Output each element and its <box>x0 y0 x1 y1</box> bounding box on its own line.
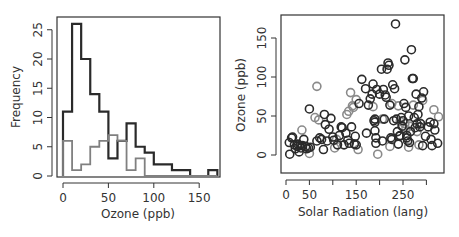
scatter-point-gray <box>374 150 382 158</box>
y-tick-label: 150 <box>255 27 269 50</box>
scatter-point-gray <box>313 82 321 90</box>
scatter-point-dark <box>401 56 409 64</box>
histogram-panel: 050100150 0510152025 Ozone (ppb) Frequen… <box>9 17 220 221</box>
x-tick-label: 0 <box>282 188 290 202</box>
y-tick-label: 5 <box>31 143 45 151</box>
histogram-dark-line <box>63 24 217 176</box>
histogram-series <box>63 24 217 176</box>
chart-canvas: 050100150 0510152025 Ozone (ppb) Frequen… <box>0 0 459 237</box>
y-tick-label: 10 <box>31 110 45 125</box>
scatter-point-dark <box>305 105 313 113</box>
histogram-x-label: Ozone (ppb) <box>101 207 175 221</box>
y-tick-label: 50 <box>255 108 269 123</box>
scatter-point-dark <box>362 129 370 137</box>
scatter-series <box>285 20 442 158</box>
scatter-point-dark <box>392 20 400 28</box>
scatter-y-axis: 050100150 <box>255 27 276 159</box>
scatter-x-label: Solar Radiation (lang) <box>298 205 428 219</box>
scatter-point-dark <box>407 46 415 54</box>
x-tick-label: 250 <box>392 188 415 202</box>
scatter-panel: 050150250 050100150 Solar Radiation (lan… <box>234 15 444 219</box>
scatter-y-label: Ozone (ppb) <box>234 58 248 132</box>
scatter-point-gray <box>298 126 306 134</box>
histogram-y-axis: 0510152025 <box>31 22 52 180</box>
scatter-point-dark <box>394 140 402 148</box>
histogram-gray-line <box>63 135 217 176</box>
scatter-point-dark <box>351 132 359 140</box>
histogram-y-label: Frequency <box>9 66 23 128</box>
x-tick-label: 50 <box>302 188 317 202</box>
x-tick-label: 150 <box>345 188 368 202</box>
scatter-point-dark <box>348 123 356 131</box>
x-tick-label: 100 <box>142 191 165 205</box>
histogram-x-axis: 050100150 <box>59 183 210 205</box>
scatter-x-axis: 050150250 <box>282 180 426 202</box>
x-tick-label: 50 <box>101 191 116 205</box>
y-tick-label: 0 <box>31 172 45 180</box>
x-tick-label: 0 <box>59 191 67 205</box>
y-tick-label: 25 <box>31 22 45 37</box>
y-tick-label: 100 <box>255 66 269 89</box>
scatter-point-dark <box>319 146 327 154</box>
chart-figure: 050100150 0510152025 Ozone (ppb) Frequen… <box>0 0 459 237</box>
y-tick-label: 0 <box>255 151 269 159</box>
scatter-point-gray <box>347 89 355 97</box>
x-tick-label: 150 <box>188 191 211 205</box>
scatter-point-dark <box>358 75 366 83</box>
y-tick-label: 15 <box>31 81 45 96</box>
scatter-point-dark <box>327 114 335 122</box>
y-tick-label: 20 <box>31 51 45 66</box>
